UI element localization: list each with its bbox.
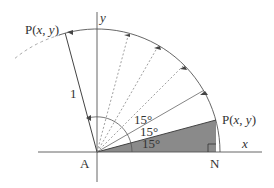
foot-label: N — [210, 156, 220, 171]
point-label-rotated-15: P(x, y) — [222, 112, 256, 127]
angle-label-3: 15° — [142, 136, 160, 151]
arc-arrows — [67, 30, 208, 95]
rotation-diagram: A N x y 1 P(x, y) P(x, y) 15° 15° 15° — [0, 0, 274, 188]
radius-label: 1 — [70, 86, 77, 101]
dashed-arc-continuation — [13, 35, 60, 60]
y-axis-label: y — [98, 10, 106, 25]
x-axis-label: x — [241, 136, 248, 151]
origin-label: A — [80, 156, 90, 171]
radius-75 — [97, 33, 129, 152]
point-label-rotated-105: P(x, y) — [25, 22, 59, 37]
